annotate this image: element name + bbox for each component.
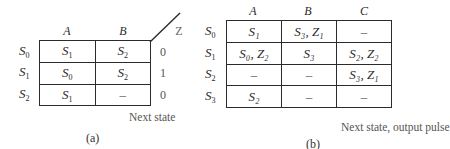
row-label-s1: S1 [19, 64, 30, 81]
figure-label-a: (a) [86, 131, 99, 146]
column-header-a: A [57, 24, 77, 39]
caption-next-state: Next state [129, 111, 175, 123]
cell: S₂ [227, 86, 282, 108]
cell: S1 [40, 41, 96, 63]
row-label-s3: S3 [205, 88, 216, 105]
column-header-a: A [243, 4, 263, 19]
row-label-s2: S2 [19, 86, 30, 103]
row-label-s1: S1 [205, 45, 216, 62]
cell: S₃, Z₁ [337, 65, 392, 86]
column-header-b: B [298, 4, 318, 19]
cell: S1 [40, 85, 96, 106]
cell: S₃, Z₁ [282, 21, 337, 43]
column-header-b: B [113, 24, 133, 39]
cell: S₃ [282, 43, 337, 65]
cell: – [282, 65, 337, 86]
cell: – [227, 65, 282, 86]
row-label-s0: S0 [19, 43, 30, 60]
next-state-output-grid-b: S₁ S₃, Z₁ – S₀, Z₂ S₃ S₂, Z₂ – – S₃, Z₁ … [226, 20, 392, 108]
output-value: 0 [156, 45, 170, 60]
cell: – [95, 85, 151, 106]
column-header-c: C [354, 4, 374, 19]
diagonal-divider [148, 10, 184, 44]
cell: S₀, Z₂ [227, 43, 282, 65]
cell: S₂, Z₂ [337, 43, 392, 65]
output-value: 1 [156, 66, 170, 81]
cell: S2 [95, 41, 151, 63]
cell: S₁ [227, 21, 282, 43]
figure-label-b: (b) [306, 137, 320, 149]
cell: S0 [40, 63, 96, 85]
cell: – [337, 21, 392, 43]
next-state-grid-a: S1 S2 S0 S2 S1 – [39, 40, 151, 106]
output-value: 0 [156, 88, 170, 103]
cell: S2 [95, 63, 151, 85]
caption-next-state-output-pulse: Next state, output pulse [341, 121, 450, 133]
row-label-s2: S2 [205, 66, 216, 83]
cell: – [337, 86, 392, 108]
row-label-s0: S0 [205, 23, 216, 40]
cell: – [282, 86, 337, 108]
